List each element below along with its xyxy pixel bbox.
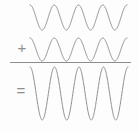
plus-operator: + — [14, 40, 30, 56]
wave-curve-wave-sum — [30, 67, 128, 120]
wave-diagram-canvas — [0, 0, 139, 132]
wave-curve-wave-2 — [30, 38, 127, 61]
wave-curve-wave-1 — [30, 5, 127, 30]
equals-operator: = — [13, 83, 29, 99]
wave-interference-figure: + = — [0, 0, 139, 132]
